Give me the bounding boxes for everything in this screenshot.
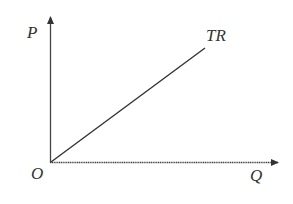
tr-curve bbox=[51, 48, 205, 162]
diagram-svg: P Q O TR bbox=[0, 0, 293, 204]
y-axis-label: P bbox=[26, 23, 37, 42]
x-axis-label: Q bbox=[250, 166, 262, 185]
origin-label: O bbox=[31, 164, 43, 183]
tr-curve-label: TR bbox=[206, 26, 226, 45]
tr-diagram: P Q O TR bbox=[0, 0, 293, 204]
